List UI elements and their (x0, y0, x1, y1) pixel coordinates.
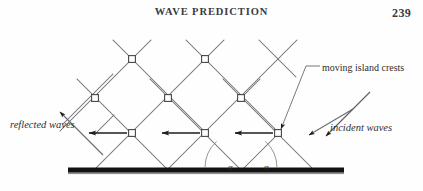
page-title: WAVE PREDICTION (0, 6, 423, 17)
seawall-baseline (68, 168, 344, 175)
reflected-ray-line (63, 74, 113, 124)
wave-diagram-figure: reflected waves incident waves moving is… (0, 22, 423, 191)
book-page: WAVE PREDICTION 239 (0, 0, 423, 191)
angle-alpha-right-label: α (264, 162, 269, 172)
wave-diagram-svg (0, 22, 423, 191)
crest-lines-down-right (77, 40, 314, 170)
moving-island-crests-label: moving island crests (322, 62, 404, 73)
angle-alpha-left-label: α (228, 162, 233, 172)
page-number: 239 (392, 6, 411, 21)
running-head: WAVE PREDICTION 239 (0, 6, 423, 22)
incident-waves-label: incident waves (330, 122, 392, 133)
reflected-waves-label: reflected waves (10, 119, 75, 130)
crests-leader-line (281, 66, 320, 129)
crest-intersection-nodes (92, 56, 282, 137)
